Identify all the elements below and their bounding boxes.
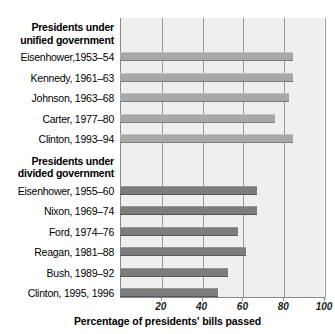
category-label: Ford, 1974–76 [0,226,120,238]
bar [120,52,293,61]
bar [120,268,228,277]
category-label: Clinton, 1995, 1996 [0,287,120,299]
category-label: Kennedy, 1961–63 [0,72,120,84]
category-label: Eisenhower,1953–54 [0,51,120,63]
x-tick-label-60: 60 [237,301,248,312]
category-label: Johnson, 1963–68 [0,92,120,104]
category-label: Nixon, 1969–74 [0,205,120,217]
bar-chart: Presidents underunified governmentEisenh… [0,0,335,334]
group-header-unified: unified government [0,34,120,47]
bar [120,93,289,102]
bar [120,247,246,256]
category-label: Bush, 1989–92 [0,267,120,279]
bar [120,206,257,215]
category-label: Carter, 1977–80 [0,113,120,125]
x-axis-line [120,297,324,298]
bar [120,73,293,82]
category-label: Clinton, 1993–94 [0,133,120,145]
x-axis-title: Percentage of presidents' bills passed [0,315,335,327]
x-tick-label-20: 20 [155,301,166,312]
group-header-divided: divided government [0,167,120,180]
x-tick-label-40: 40 [196,301,207,312]
bar [120,186,257,195]
x-tick-label-80: 80 [278,301,289,312]
bar [120,227,238,236]
bar [120,134,293,143]
group-header-unified: Presidents under [0,21,120,34]
gridline-100 [325,18,326,298]
bar [120,114,275,123]
bar [120,288,218,297]
x-tick-label-100: 100 [316,301,333,312]
category-label: Eisenhower, 1955–60 [0,185,120,197]
group-header-divided: Presidents under [0,155,120,168]
category-label: Reagan, 1981–88 [0,246,120,258]
